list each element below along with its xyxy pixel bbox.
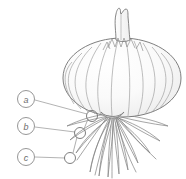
bulb-neck [115,8,130,41]
callout-label-b[interactable]: b [18,118,35,135]
bulb-body [63,38,181,117]
callout-label-a[interactable]: a [18,91,35,108]
callout-label-c-text: c [24,153,29,163]
bulb-diagram-figure: a b c [0,0,186,179]
callout-label-c[interactable]: c [18,149,35,166]
callout-label-a-text: a [23,95,28,105]
callout-label-b-text: b [23,122,28,132]
bulb-illustration: a b c [0,0,186,179]
